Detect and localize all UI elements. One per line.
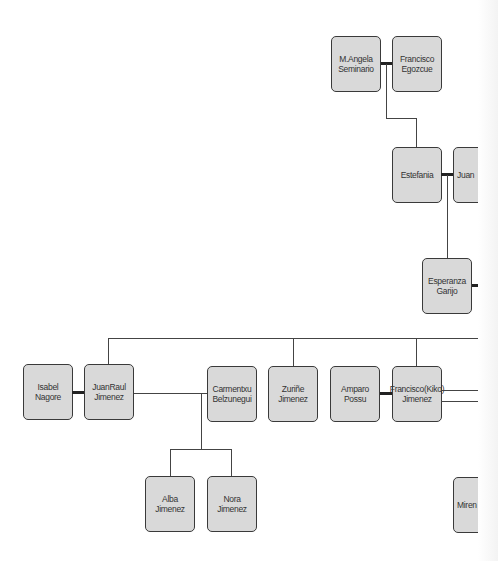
person-m-angela-seminario[interactable]: M.Angela Seminario: [331, 36, 381, 92]
person-label: Francisco Egozcue: [394, 54, 440, 74]
person-amparo-possu[interactable]: Amparo Possu: [330, 366, 380, 422]
descent-line: [386, 118, 417, 119]
person-carmentxu-belzunegui[interactable]: Carmentxu Belzunegui: [207, 366, 257, 422]
person-label: Amparo Possu: [332, 384, 378, 404]
person-label: Juan: [457, 170, 474, 180]
child-drop: [231, 449, 232, 476]
person-francisco-kiko-jimenez[interactable]: Francisco(Kiko) Jimenez: [392, 366, 442, 422]
family-tree-canvas: M.Angela Seminario Francisco Egozcue Est…: [0, 0, 478, 561]
child-drop: [170, 449, 171, 476]
sibling-drop: [108, 338, 109, 364]
person-label: Nora Jimenez: [209, 494, 255, 514]
person-label: Carmentxu Belzunegui: [209, 384, 255, 404]
person-label: Zuriñe Jimenez: [270, 384, 316, 404]
person-francisco-egozcue[interactable]: Francisco Egozcue: [392, 36, 442, 92]
person-zurine-jimenez[interactable]: Zuriñe Jimenez: [268, 366, 318, 422]
person-estefania[interactable]: Estefania: [392, 147, 442, 203]
descent-line: [386, 64, 387, 119]
sibling-drop: [293, 338, 294, 366]
person-label: JuanRaul Jimenez: [86, 382, 132, 402]
person-miren[interactable]: Miren ...: [453, 477, 478, 533]
person-label: Esperanza Garijo: [424, 276, 470, 296]
person-label: Miren ...: [457, 500, 478, 510]
person-juan[interactable]: Juan: [453, 147, 478, 203]
sibling-drop: [416, 338, 417, 366]
person-label: Estefania: [401, 170, 434, 180]
descent-line: [447, 175, 448, 258]
person-nora-jimenez[interactable]: Nora Jimenez: [207, 476, 257, 532]
person-label: Isabel Nagore: [25, 382, 71, 402]
relation-line: [441, 401, 478, 402]
person-label: M.Angela Seminario: [333, 54, 379, 74]
person-esperanza-garijo[interactable]: Esperanza Garijo: [422, 258, 472, 314]
relation-line: [134, 393, 207, 394]
descent-line: [201, 393, 202, 449]
person-label: Alba Jimenez: [147, 494, 193, 514]
relation-line: [441, 390, 478, 391]
person-juanraul-jimenez[interactable]: JuanRaul Jimenez: [84, 364, 134, 420]
children-bar: [170, 449, 232, 450]
descent-line: [416, 118, 417, 147]
person-label: Francisco(Kiko) Jimenez: [390, 384, 445, 404]
couple-connector: [72, 391, 84, 394]
page-edge: [478, 0, 498, 561]
person-alba-jimenez[interactable]: Alba Jimenez: [145, 476, 195, 532]
person-isabel-nagore[interactable]: Isabel Nagore: [23, 364, 73, 420]
